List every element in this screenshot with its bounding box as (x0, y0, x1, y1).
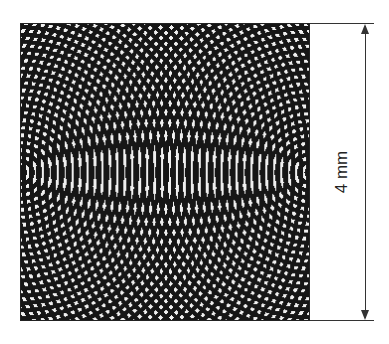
arrow-up-icon (361, 24, 369, 34)
dimension-extension-line-bottom (310, 320, 374, 321)
arrow-down-icon (361, 310, 369, 320)
interference-pattern-image (20, 23, 310, 321)
interference-pattern-canvas (21, 24, 309, 320)
dimension-label: 4 mm (332, 151, 352, 194)
dimension-line (365, 26, 366, 318)
interference-figure: 4 mm (0, 0, 389, 344)
